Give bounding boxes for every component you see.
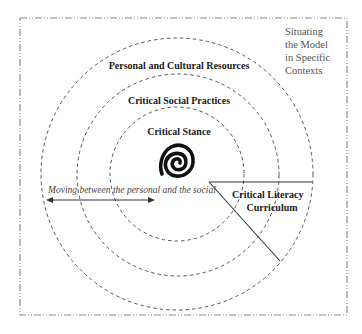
ring-label-critical-social-practices: Critical Social Practices [128,95,230,106]
context-label-line-2: the Model [285,39,328,50]
spiral-icon [160,145,193,176]
wedge-label: Critical Literacy Curriculum [232,189,306,213]
ring-label-personal-cultural-resources: Personal and Cultural Resources [109,60,250,71]
arrow-label: Moving between the personal and the soci… [47,185,216,195]
context-label-line-3: in Specific [285,52,331,63]
ring-personal-cultural-resources [41,38,313,310]
critical-literacy-model-diagram: Situating the Model in Specific Contexts… [0,0,362,334]
ring-label-critical-stance: Critical Stance [147,126,211,137]
context-label-line-4: Contexts [285,65,322,76]
context-label: Situating the Model in Specific Contexts [285,26,333,76]
context-label-line-1: Situating [285,26,324,37]
wedge-label-line-2: Curriculum [246,202,298,213]
wedge-label-line-1: Critical Literacy [232,189,303,200]
double-arrow-icon [46,197,155,203]
